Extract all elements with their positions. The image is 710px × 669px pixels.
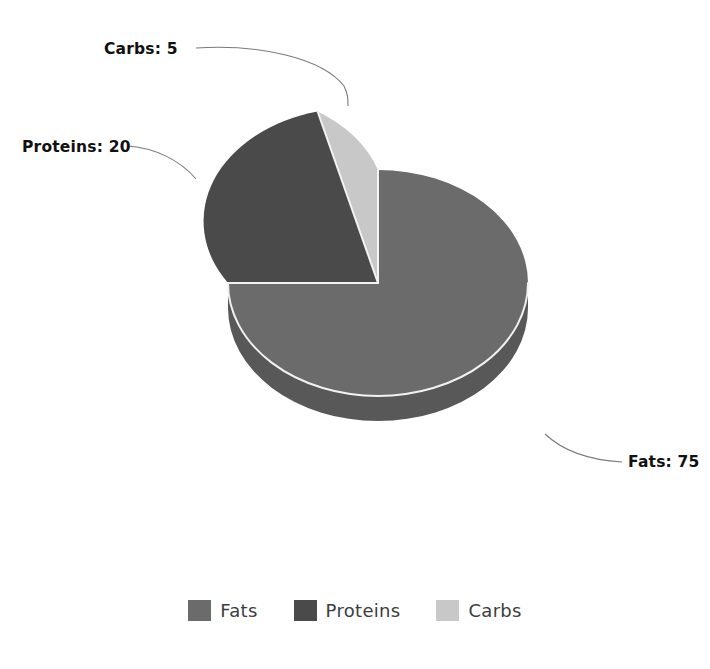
legend-item-proteins[interactable]: Proteins xyxy=(294,600,401,621)
legend-item-carbs[interactable]: Carbs xyxy=(436,600,521,621)
pie-chart-graphic xyxy=(0,0,710,669)
leader-line-fats xyxy=(545,434,622,462)
legend-label-fats: Fats xyxy=(220,600,257,621)
pie-chart-figure: Carbs: 5 Proteins: 20 Fats: 75 Fats Prot… xyxy=(0,0,710,669)
callout-label-proteins: Proteins: 20 xyxy=(22,138,131,156)
leader-line-proteins xyxy=(128,146,196,179)
callout-label-fats: Fats: 75 xyxy=(628,453,700,471)
chart-legend: Fats Proteins Carbs xyxy=(0,600,710,621)
legend-swatch-fats xyxy=(188,600,211,621)
callout-label-carbs: Carbs: 5 xyxy=(104,40,178,58)
legend-label-proteins: Proteins xyxy=(326,600,401,621)
legend-item-fats[interactable]: Fats xyxy=(188,600,257,621)
legend-swatch-proteins xyxy=(294,600,317,621)
leader-line-carbs xyxy=(196,47,348,106)
legend-label-carbs: Carbs xyxy=(468,600,521,621)
legend-swatch-carbs xyxy=(436,600,459,621)
